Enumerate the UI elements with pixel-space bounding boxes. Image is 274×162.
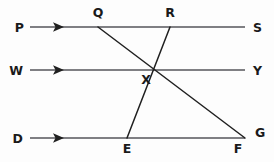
label-s: S [253, 20, 262, 35]
label-g: G [255, 125, 265, 140]
label-r: R [165, 5, 175, 20]
label-f: F [234, 141, 243, 156]
transversal-qg [98, 27, 245, 138]
label-y: Y [252, 63, 263, 78]
label-w: W [9, 63, 23, 78]
geometry-figure: P Q R S W X Y D E F G [0, 0, 274, 162]
label-x: X [141, 72, 151, 87]
transversals-group [98, 27, 245, 138]
label-e: E [123, 141, 132, 156]
geometry-canvas: P Q R S W X Y D E F G [0, 0, 274, 162]
label-p: P [15, 20, 24, 35]
parallel-lines-group [30, 27, 245, 138]
label-q: Q [93, 5, 104, 20]
arrowheads-group [53, 22, 64, 143]
label-d: D [13, 131, 23, 146]
